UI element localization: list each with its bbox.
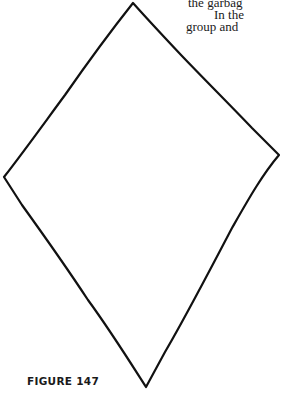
kite-outline: [4, 3, 279, 387]
text-fragment-line-3: group and: [186, 21, 238, 33]
figure-caption: FIGURE 147: [27, 375, 99, 387]
document-page: the garbag In the group and FIGURE 147: [0, 0, 284, 397]
kite-diagram: [0, 0, 284, 397]
